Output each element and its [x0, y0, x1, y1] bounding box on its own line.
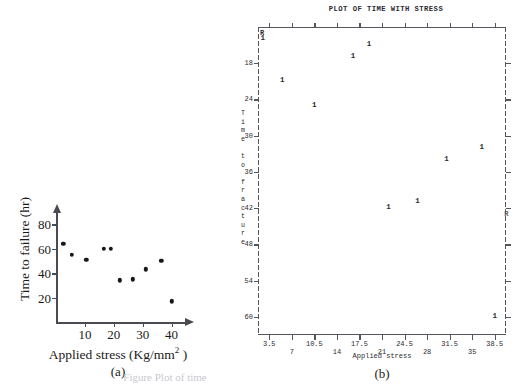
panel-b-x-tick-top: [337, 23, 338, 28]
panel-a-x-axis-label-main: Applied stress (Kg/mm: [49, 347, 175, 362]
panel-a-y-tick-label: 40: [38, 267, 51, 280]
panel-b-data-point: 1: [492, 313, 497, 321]
panel-b-y-tick-label: 48: [245, 241, 253, 248]
panel-b-y-tick-right: [506, 281, 511, 282]
figure-bottom-caption: Figure Plot of time: [60, 371, 270, 383]
panel-b-x-tick-top: [269, 23, 270, 28]
panel-a-y-tick-label: 60: [38, 242, 51, 255]
panel-b-x-tick-top: [359, 23, 360, 28]
panel-b-x-tick-bottom: [405, 335, 406, 340]
panel-a-data-point: [159, 259, 163, 263]
panel-b-right-edge-marker: R: [504, 210, 508, 218]
panel-a-y-tick: [52, 273, 57, 274]
panel-b-frame-left: [258, 27, 259, 335]
panel-b-y-tick-left: [254, 136, 259, 137]
panel-a-y-tick: [52, 224, 57, 225]
panel-b-x-tick-label: 3.5: [263, 341, 276, 348]
panel-b-plot-frame: R R 60544842363024183.5710.51417.52124.5…: [258, 27, 506, 335]
panel-a-x-axis: [56, 322, 186, 324]
panel-a-data-point: [84, 257, 88, 261]
panel-b-x-tick-bottom: [427, 335, 428, 340]
panel-b-data-point: 1: [415, 198, 420, 206]
panel-b-x-tick-top: [314, 23, 315, 28]
panel-b-frame-right: [505, 27, 506, 335]
panel-b-title: PLOT OF TIME WITH STRESS: [255, 5, 517, 13]
panel-b-y-tick-label: 42: [245, 205, 253, 212]
panel-b-y-tick-right: [506, 208, 511, 209]
panel-b-y-tick-right: [506, 99, 511, 100]
panel-a-data-point: [130, 277, 134, 281]
panel-b-data-point: 1: [444, 156, 449, 164]
panel-b-x-tick-top: [472, 23, 473, 28]
panel-a-x-tick-label: 10: [78, 328, 91, 341]
panel-b-y-tick-label: 18: [245, 60, 253, 67]
panel-b-x-tick-label: 10.5: [306, 341, 323, 348]
panel-b-y-axis-label-char: t: [236, 153, 250, 162]
panel-b-y-tick-right: [506, 172, 511, 173]
panel-b-x-tick-label: 38.5: [486, 341, 503, 348]
panel-b-x-tick-bottom: [382, 335, 383, 340]
panel-b-data-point: 1: [367, 41, 372, 49]
panel-b-y-tick-label: 30: [245, 132, 253, 139]
panel-b-x-tick-bottom: [450, 335, 451, 340]
panel-a-y-tick-label: 80: [38, 218, 51, 231]
panel-b-y-tick-left: [254, 317, 259, 318]
panel-a-y-axis: [56, 212, 58, 322]
panel-b-y-axis-label-char: i: [236, 119, 250, 128]
panel-b-y-tick-right: [506, 136, 511, 137]
panel-b-caption: (b): [258, 366, 506, 382]
panel-b-x-tick-top: [450, 23, 451, 28]
panel-b-x-tick-top: [292, 23, 293, 28]
panel-a-data-point: [101, 246, 105, 250]
panel-b-y-axis-label-char: [236, 144, 250, 153]
panel-b-x-tick-label: 31.5: [441, 341, 458, 348]
panel-b-y-tick-left: [254, 244, 259, 245]
panel-a-data-point: [143, 267, 147, 271]
panel-a-y-axis-arrow-icon: [53, 204, 61, 213]
panel-b-y-axis-label-char: t: [236, 213, 250, 222]
panel-a-x-tick-label: 20: [107, 328, 120, 341]
panel-b-data-point: 1: [351, 53, 356, 61]
panel-b-x-tick-bottom: [359, 335, 360, 340]
figure-panel-a: Time to failure (hr) 2040608010203040 Ap…: [0, 190, 240, 390]
panel-a-data-point: [109, 246, 113, 250]
panel-b-y-tick-left: [254, 208, 259, 209]
panel-a-data-point: [169, 299, 173, 303]
panel-b-y-tick-left: [254, 172, 259, 173]
panel-b-y-tick-left: [254, 99, 259, 100]
panel-a-plot-area: 2040608010203040: [56, 212, 192, 322]
panel-b-data-point: 1: [280, 78, 285, 86]
panel-b-y-axis-label-char: r: [236, 230, 250, 239]
panel-b-x-tick-top: [427, 23, 428, 28]
panel-b-x-tick-bottom: [314, 335, 315, 340]
panel-b-y-axis-label-char: f: [236, 179, 250, 188]
panel-b-y-tick-label: 36: [245, 168, 253, 175]
panel-b-y-axis-label-char: u: [236, 222, 250, 231]
panel-a-y-tick: [52, 298, 57, 299]
panel-a-y-tick-label: 20: [38, 291, 51, 304]
panel-a-x-axis-label-tail: ): [179, 347, 187, 362]
panel-b-x-tick-top: [382, 23, 383, 28]
panel-b-data-point: 1: [261, 35, 266, 43]
panel-b-x-tick-label: 24.5: [396, 341, 413, 348]
panel-b-x-tick-bottom: [269, 335, 270, 340]
panel-b-y-tick-left: [254, 63, 259, 64]
panel-a-x-tick-label: 40: [165, 328, 178, 341]
panel-b-x-tick-bottom: [292, 335, 293, 340]
panel-b-x-tick-bottom: [495, 335, 496, 340]
panel-a-data-point: [61, 242, 65, 246]
panel-b-data-point: 1: [480, 144, 485, 152]
panel-b-x-tick-bottom: [337, 335, 338, 340]
panel-b-x-axis-label: Applied stress: [258, 352, 506, 360]
panel-b-y-tick-label: 24: [245, 96, 253, 103]
panel-b-y-axis-label-char: T: [236, 110, 250, 119]
panel-a-x-axis-label: Applied stress (Kg/mm2 ): [0, 345, 236, 363]
figure-panel-b: PLOT OF TIME WITH STRESS Time to fractur…: [212, 0, 517, 390]
panel-a-data-point: [117, 278, 121, 282]
panel-b-x-tick-top: [495, 23, 496, 28]
panel-b-data-point: 1: [312, 102, 317, 110]
panel-b-y-tick-right: [506, 317, 511, 318]
panel-b-x-tick-top: [405, 23, 406, 28]
panel-a-y-axis-label: Time to failure (hr): [17, 189, 35, 309]
panel-b-y-tick-left: [254, 281, 259, 282]
